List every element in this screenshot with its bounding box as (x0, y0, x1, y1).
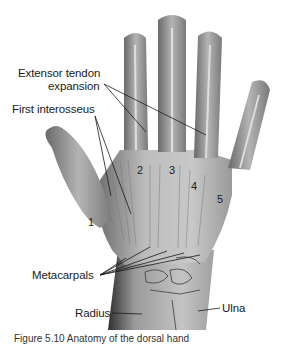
label-metacarpals: Metacarpals (32, 269, 94, 281)
label-ulna: Ulna (222, 302, 245, 314)
metacarpal-number-5: 5 (217, 194, 223, 205)
metacarpal-number-4: 4 (191, 181, 197, 192)
label-radius: Radius (75, 307, 110, 319)
figure-caption: Figure 5.10 Anatomy of the dorsal hand (14, 333, 189, 345)
metacarpal-number-3: 3 (169, 165, 175, 176)
little-finger (228, 80, 270, 170)
label-first-interosseus: First interosseus (12, 103, 95, 115)
metacarpal-number-2: 2 (137, 165, 143, 176)
metacarpal-number-1: 1 (88, 217, 94, 228)
label-extensor-tendon: Extensor tendon (18, 67, 100, 79)
label-expansion: expansion (48, 80, 100, 92)
